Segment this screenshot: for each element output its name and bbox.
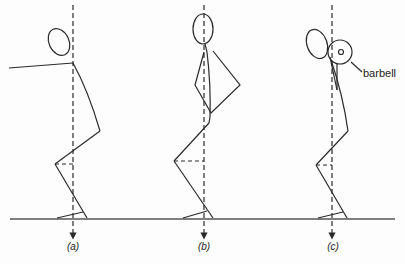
barbell-leader-line [351, 62, 362, 72]
foot-a [57, 212, 83, 218]
head-a [44, 25, 74, 59]
torso-a [73, 63, 100, 131]
stick-figure-diagram [0, 0, 405, 264]
shin-b [174, 161, 213, 218]
shin-a [55, 164, 87, 218]
caption-a: (a) [67, 241, 79, 252]
neck-b [205, 44, 207, 52]
figure-a [9, 5, 100, 236]
head-b [193, 14, 213, 44]
figure-c [302, 5, 362, 236]
figure-b [174, 5, 240, 236]
barbell-bar-end [339, 50, 344, 55]
shin-c [316, 165, 347, 218]
arm-a [9, 63, 73, 68]
caption-c: (c) [327, 241, 339, 252]
torso-b [207, 52, 210, 123]
caption-b: (b) [198, 241, 210, 252]
arms-b [195, 51, 240, 113]
thigh-a [55, 131, 100, 164]
torso-c [331, 60, 348, 131]
diagram-canvas: (a) (b) (c) barbell [0, 0, 405, 264]
foot-c [318, 212, 343, 218]
head-c [302, 26, 331, 61]
barbell-label: barbell [363, 67, 396, 79]
